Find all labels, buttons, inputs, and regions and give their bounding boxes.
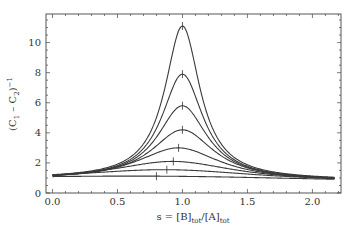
data-curve <box>53 74 335 177</box>
x-tick-label: 2.0 <box>304 196 320 207</box>
x-tick-label: 0.0 <box>45 196 61 207</box>
x-axis-label: s = [B]tot/[A]tot <box>156 211 229 225</box>
y-axis-ticks: 0246810 <box>28 20 341 198</box>
y-tick-label: 6 <box>35 97 41 108</box>
data-curve <box>53 26 335 177</box>
y-tick-label: 10 <box>28 37 41 48</box>
chart: 0.00.51.01.52.0 0246810 s = [B]tot/[A]to… <box>0 0 357 235</box>
y-tick-label: 4 <box>35 127 41 138</box>
x-tick-label: 0.5 <box>110 196 126 207</box>
curves <box>53 26 335 179</box>
y-tick-label: 0 <box>35 188 41 199</box>
plot-frame <box>46 14 341 193</box>
peak-markers <box>156 22 182 180</box>
x-tick-label: 1.5 <box>239 196 255 207</box>
y-axis-label: (C1 – C2)−1 <box>6 77 21 131</box>
y-tick-label: 2 <box>35 157 41 168</box>
x-tick-label: 1.0 <box>175 196 191 207</box>
data-curve <box>53 106 335 178</box>
y-tick-label: 8 <box>35 67 41 78</box>
